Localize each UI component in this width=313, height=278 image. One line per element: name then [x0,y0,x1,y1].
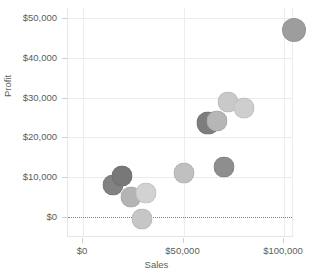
y-axis-tick [62,217,67,218]
plot-area [67,8,293,237]
data-point[interactable] [213,157,234,178]
y-axis-tick-label: $20,000 [0,132,57,142]
gridline-horizontal [68,98,292,99]
gridline-horizontal [68,58,292,59]
y-axis-tick [62,137,67,138]
x-axis-tick [183,238,184,243]
y-axis-tick [62,98,67,99]
gridline-horizontal [68,137,292,138]
x-axis-tick [283,238,284,243]
y-axis-tick-label: $40,000 [0,53,57,63]
data-point[interactable] [132,209,153,230]
y-axis-tick-label: $0 [0,212,57,222]
y-axis-tick [62,18,67,19]
x-axis-title: Sales [0,259,313,270]
gridline-vertical [184,8,185,236]
data-point[interactable] [112,166,133,187]
data-point[interactable] [206,110,227,131]
scatter-chart: $0$10,000$20,000$30,000$40,000$50,000 $0… [0,0,313,278]
x-axis-tick-label: $50,000 [143,246,223,256]
zero-reference-line [68,217,292,218]
data-point[interactable] [136,183,157,204]
y-axis-tick-label: $50,000 [0,13,57,23]
y-axis-tick [62,58,67,59]
data-point[interactable] [282,18,306,42]
y-axis-tick [62,177,67,178]
gridline-vertical [284,8,285,236]
y-axis-tick-label: $10,000 [0,172,57,182]
x-axis-tick-label: $0 [42,246,122,256]
x-axis-tick [82,238,83,243]
gridline-vertical [83,8,84,236]
data-point[interactable] [233,97,254,118]
y-axis-title: Profit [2,75,13,97]
gridline-horizontal [68,18,292,19]
x-axis-tick-label: $100,000 [243,246,313,256]
data-point[interactable] [173,163,194,184]
